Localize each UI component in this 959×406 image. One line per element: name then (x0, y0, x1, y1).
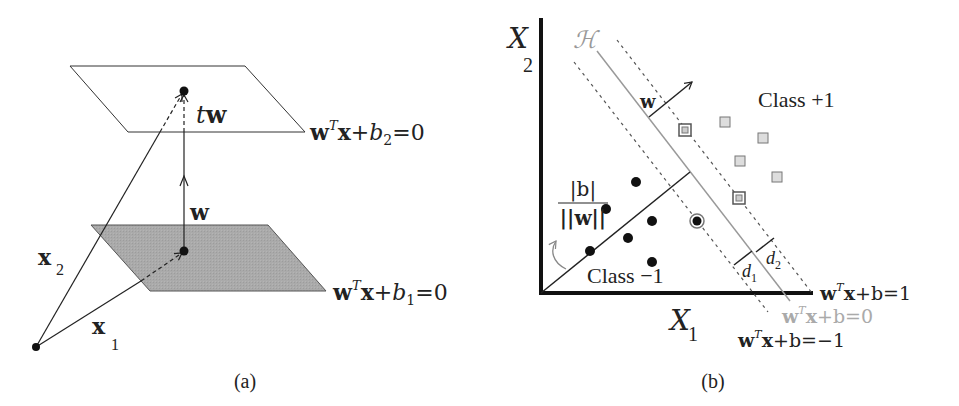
svg-text:wTx+b=−1: wTx+b=−1 (737, 328, 845, 351)
class-positive-label: Class +1 (758, 87, 835, 112)
margin-line-positive (617, 40, 812, 293)
origin-point (32, 343, 40, 351)
curved-arrow (553, 241, 566, 269)
top-hyperplane (70, 66, 305, 132)
panel-b: X 2 X 1 ℋ w Class +1 Class −1 |b| ||w|| … (506, 18, 911, 393)
w-label: w (189, 199, 210, 225)
top-plane-equation: wTx+b2=0 (309, 118, 425, 148)
x2-label: x (38, 244, 52, 270)
caption-a: (a) (234, 370, 256, 393)
x1-vector (36, 281, 141, 347)
svg-text:wTx+b=1: wTx+b=1 (819, 281, 911, 304)
x2-label-sub: 2 (56, 261, 64, 278)
svg-text:tw: tw (196, 100, 228, 129)
top-plane-point (180, 87, 189, 96)
x1-label-sub: 1 (111, 336, 119, 353)
svg-text:d1: d1 (742, 261, 757, 285)
tw-label-t: t (196, 101, 206, 129)
caption-b: (b) (701, 370, 724, 393)
x2-axis-label: X (506, 22, 529, 55)
x1-label: x (92, 313, 106, 339)
class-positive-points (720, 117, 782, 182)
bias-fraction: |b| ||w|| (558, 177, 608, 230)
margin-positive-equation: wTx+b=1 (819, 281, 911, 304)
class-negative-support-vector (690, 214, 704, 228)
svm-figure: tw w x 2 x 1 wTx+b2=0 wTx+b1=0 (a) (0, 0, 959, 406)
svg-text:wTx+b=0: wTx+b=0 (781, 304, 873, 327)
svg-text:||w||: ||w|| (560, 206, 606, 230)
bottom-hyperplane (91, 225, 326, 291)
svg-text:wTx+b2=0: wTx+b2=0 (309, 118, 425, 148)
d2-label-sub: 2 (775, 258, 781, 272)
hyperplane-equation: wTx+b=0 (781, 304, 873, 327)
tw-label-w: w (205, 100, 228, 129)
hyperplane-label: ℋ (573, 27, 600, 53)
svg-text:wTx+b1=0: wTx+b1=0 (332, 278, 448, 308)
bottom-plane-equation: wTx+b1=0 (332, 278, 448, 308)
margin-negative-equation: wTx+b=−1 (737, 328, 845, 351)
class-negative-label: Class −1 (587, 263, 664, 288)
w-label: w (639, 91, 656, 112)
svg-text:d2: d2 (766, 248, 781, 272)
d1-label-sub: 1 (751, 271, 757, 285)
x2-axis-label-sub: 2 (523, 54, 533, 76)
svg-text:|b|: |b| (570, 177, 596, 202)
bottom-plane-point (180, 247, 189, 256)
panel-a: tw w x 2 x 1 wTx+b2=0 wTx+b1=0 (a) (32, 66, 448, 393)
x1-axis-label-sub: 1 (688, 323, 698, 345)
